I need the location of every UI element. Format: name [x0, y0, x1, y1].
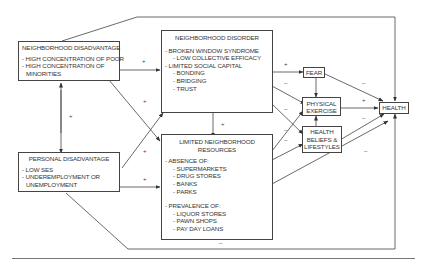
node-line: LIFESTYLES: [304, 143, 340, 151]
node-health-beliefs: HEALTH BELIEFS & LIFESTYLES: [302, 126, 342, 153]
node-line: - HIGH CONCENTRATION OF POOR: [22, 55, 116, 63]
node-line: - UNDEREMPLOYMENT OR: [22, 173, 116, 181]
sign-fear-to-health: –: [362, 80, 365, 86]
node-title: RESOURCES: [165, 146, 269, 154]
node-line: EXERCISE: [306, 107, 337, 114]
node-line: - DRUG STORES: [165, 172, 269, 180]
node-title: LIMITED NEIGHBORHOOD: [165, 138, 269, 146]
sign-disorder-to-exercise: –: [284, 80, 287, 86]
sign-disorder-to-resources: +: [221, 121, 225, 127]
sign-resources-to-beliefs: –: [284, 137, 287, 143]
node-line: - TRUST: [165, 85, 269, 93]
node-title: PERSONAL DISADVANTAGE: [22, 155, 116, 163]
sign-exercise-to-health: +: [362, 97, 366, 103]
arrow-resources-to-exercise: [272, 111, 303, 151]
sign-nd-to-resources: +: [143, 98, 147, 104]
sign-resources-to-exercise: –: [284, 127, 287, 133]
sign-beliefs-to-health: –: [362, 115, 365, 121]
node-line: HEALTH: [310, 128, 333, 136]
node-title: HEALTH: [382, 104, 405, 112]
node-title: NEIGHBORHOOD DISORDER: [165, 34, 269, 42]
node-line: - LIMITED SOCIAL CAPITAL: [165, 62, 269, 70]
node-neighborhood-disorder: NEIGHBORHOOD DISORDER - BROKEN WINDOW SY…: [161, 30, 273, 113]
node-limited-resources: LIMITED NEIGHBORHOOD RESOURCES - ABSENCE…: [161, 134, 273, 240]
sign-disorder-to-fear: +: [284, 61, 288, 67]
node-fear: FEAR: [303, 67, 325, 78]
node-line: - BROKEN WINDOW SYNDROME: [165, 47, 269, 55]
arrow-disorder-to-exercise: [272, 86, 305, 104]
node-line: - LOW SES: [22, 166, 116, 174]
node-line: PHYSICAL: [307, 100, 337, 107]
absence-header: - ABSENCE OF:: [165, 157, 269, 165]
sign-pd-to-disorder: +: [143, 148, 147, 154]
arrow-disorder-to-beliefs: [272, 104, 303, 134]
node-title: NEIGHBORHOOD DISADVANTAGE: [22, 44, 116, 52]
sign-nd-pd: +: [69, 113, 73, 119]
node-line: UNEMPLOYMENT: [22, 181, 116, 189]
node-personal-disadvantage: PERSONAL DISADVANTAGE - LOW SES - UNDERE…: [18, 152, 120, 192]
sign-pd-to-resources: +: [143, 176, 147, 182]
sign-resources-to-health: –: [364, 148, 367, 154]
sign-disorder-to-beliefs: –: [284, 106, 287, 112]
node-line: - BANKS: [165, 180, 269, 188]
node-line: - BONDING: [165, 69, 269, 77]
node-title: FEAR: [306, 69, 322, 77]
node-line: MINORITIES: [22, 70, 116, 78]
node-line: - LIQUOR STORES: [165, 210, 269, 218]
node-neighborhood-disadvantage: NEIGHBORHOOD DISADVANTAGE - HIGH CONCENT…: [18, 41, 120, 81]
arrow-pd-to-disorder: [122, 113, 163, 168]
node-line: BELIEFS &: [307, 136, 337, 144]
node-line: - PAY DAY LOANS: [165, 225, 269, 233]
sign-nd-to-disorder: +: [142, 58, 146, 64]
arrow-nd-to-resources: [109, 80, 160, 141]
node-line: - HIGH CONCENTRATION OF: [22, 62, 116, 70]
node-health: HEALTH: [379, 102, 409, 114]
node-line: - SUPERMARKETS: [165, 165, 269, 173]
node-line: - PARKS: [165, 188, 269, 196]
bottom-divider: [12, 258, 415, 259]
node-line: - PAWN SHOPS: [165, 217, 269, 225]
arrow-resources-to-beliefs: [272, 144, 303, 160]
prevalence-header: - PREVALENCE OF:: [165, 202, 269, 210]
node-physical-exercise: PHYSICAL EXERCISE: [302, 97, 341, 116]
sign-pd-to-health: –: [219, 240, 222, 246]
node-line: - BRIDGING: [165, 77, 269, 85]
node-line: - LOW COLLECTIVE EFFICACY: [165, 54, 269, 62]
